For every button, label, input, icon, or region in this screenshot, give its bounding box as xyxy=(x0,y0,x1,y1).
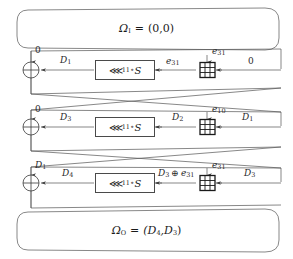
round-3-right-wire-label: D3 xyxy=(244,169,255,179)
round-3-sbox-label: S xyxy=(134,178,141,189)
round-3-xor-top-label: D1 xyxy=(35,161,46,171)
round-3-modadd-key-sub: 31 xyxy=(217,163,225,171)
diagram-root: ΩI=(0,0) ΩO=(D4,D3) ⋘11∘S 0 D1 e31 e31 0… xyxy=(0,0,293,259)
input-omega-label: ΩI=(0,0) xyxy=(0,22,293,35)
xor-operator-round-2 xyxy=(23,119,39,135)
round-3-function-box: ⋘11∘S xyxy=(95,173,155,193)
round-2-function-box: ⋘11∘S xyxy=(95,117,155,137)
round-2-right-wire-sub: 1 xyxy=(249,115,253,123)
round-2-xor-top-label: 0 xyxy=(35,105,41,114)
round-3-left-wire-sub: 4 xyxy=(69,171,73,179)
xor-operator-round-3 xyxy=(23,175,39,191)
output-omega-value-close: ) xyxy=(177,224,181,237)
round-1-modadd-key-label: e31 xyxy=(212,47,226,57)
round-3-modadd-key-label: e31 xyxy=(212,161,226,171)
round-2-mid-wire-label: D2 xyxy=(172,113,183,123)
round-1-rotate-icon: ⋘ xyxy=(109,65,122,76)
round-2-sbox-label: S xyxy=(134,122,141,133)
round-1-right-wire-label: 0 xyxy=(248,57,254,66)
round-1-rotate-amount: 11 xyxy=(122,66,130,74)
output-omega-value-open: (D xyxy=(143,224,156,237)
output-omega-value-mid: ,D xyxy=(161,224,173,237)
xor-operator-round-1 xyxy=(23,62,39,78)
round-3-xor-top-sub: 1 xyxy=(42,163,46,171)
round-1-xor-top-label: 0 xyxy=(35,46,41,55)
round-3-right-wire-sub: 3 xyxy=(251,171,255,179)
round-3-rotate-icon: ⋘ xyxy=(109,178,122,189)
round-1-left-wire-label: D1 xyxy=(60,56,71,66)
input-omega-value: (0,0) xyxy=(148,22,174,35)
modadd-operator-round-2 xyxy=(200,120,215,135)
round-1-function-box: ⋘11∘S xyxy=(95,60,155,80)
output-omega-label: ΩO=(D4,D3) xyxy=(0,224,293,237)
round-2-modadd-key-label: e10 xyxy=(212,105,226,115)
round-1-sbox-label: S xyxy=(134,65,141,76)
round-3-rotate-amount: 11 xyxy=(122,179,130,187)
modadd-operator-round-1 xyxy=(200,63,215,78)
output-omega-equals: = xyxy=(126,224,143,237)
round-2-mid-wire-sub: 2 xyxy=(179,115,183,123)
round-1-mid-wire-sub: 31 xyxy=(171,59,179,67)
round-2-rotate-icon: ⋘ xyxy=(109,122,122,133)
round-2-xor-top-base: 0 xyxy=(35,104,41,114)
round-1-modadd-key-sub: 31 xyxy=(217,49,225,57)
crossover-1-2 xyxy=(31,88,281,112)
round-2-rotate-amount: 11 xyxy=(122,123,130,131)
round-1-xor-top-base: 0 xyxy=(35,45,41,55)
round-3-mid-wire-label: D3⊕e31 xyxy=(158,169,195,179)
output-omega-symbol: Ω xyxy=(112,224,121,237)
round-1-right-wire-base: 0 xyxy=(248,56,254,66)
round-3-mid-wire-xor-icon: ⊕ xyxy=(169,168,181,178)
round-2-left-wire-sub: 3 xyxy=(67,115,71,123)
input-omega-equals: = xyxy=(131,22,148,35)
round-3-left-wire-label: D4 xyxy=(62,169,73,179)
round-3-mid-wire-sub2: 31 xyxy=(186,171,194,179)
round-2-right-wire-label: D1 xyxy=(242,113,253,123)
round-2-left-wire-label: D3 xyxy=(60,113,71,123)
round-1-left-wire-sub: 1 xyxy=(67,58,71,66)
modadd-operator-round-3 xyxy=(200,176,215,191)
round-2-modadd-key-sub: 10 xyxy=(217,107,225,115)
round-1-mid-wire-label: e31 xyxy=(166,57,180,67)
input-omega-symbol: Ω xyxy=(119,22,128,35)
